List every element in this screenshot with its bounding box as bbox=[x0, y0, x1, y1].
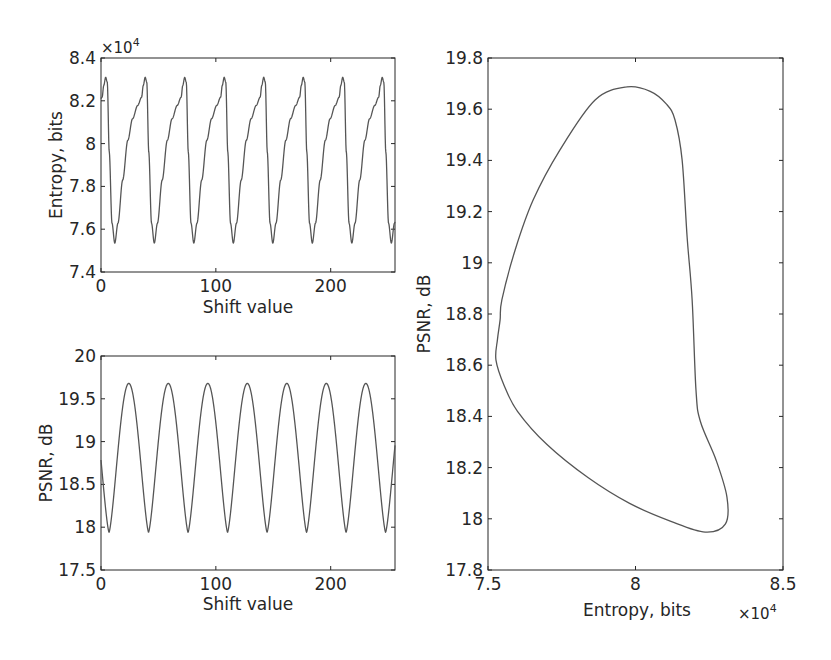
figure: 01002007.47.67.888.28.4 ×104 Shift value… bbox=[0, 0, 831, 660]
y-tick-label: 19.2 bbox=[445, 202, 483, 222]
y-tick-label: 8.4 bbox=[69, 48, 96, 68]
y-tick-label: 18.4 bbox=[445, 406, 483, 426]
y-tick-label: 18.2 bbox=[445, 458, 483, 478]
x-tick-label: 100 bbox=[200, 574, 232, 594]
x-tick-label: 0 bbox=[96, 276, 107, 296]
x-tick-label: 8 bbox=[630, 574, 641, 594]
y-tick-label: 19.6 bbox=[445, 99, 483, 119]
x-tick-label: 8.5 bbox=[769, 574, 796, 594]
entropy-line bbox=[101, 77, 395, 243]
y-tick-label: 7.4 bbox=[69, 262, 96, 282]
y-tick-label: 20 bbox=[74, 346, 96, 366]
y-tick-label: 17.8 bbox=[445, 560, 483, 580]
x-exponent-label: ×104 bbox=[738, 602, 777, 623]
y-tick-label: 19.8 bbox=[445, 48, 483, 68]
y-tick-label: 18.8 bbox=[445, 304, 483, 324]
y-tick-label: 19.5 bbox=[58, 389, 96, 409]
y-axis-label: PSNR, dB bbox=[36, 424, 56, 503]
y-tick-label: 18.5 bbox=[58, 474, 96, 494]
y-tick-label: 18 bbox=[74, 517, 96, 537]
plot-frame bbox=[101, 356, 395, 570]
x-tick-label: 200 bbox=[314, 574, 346, 594]
psnr-vs-entropy-panel: 7.588.517.81818.218.418.618.81919.219.41… bbox=[414, 48, 797, 623]
y-tick-label: 19 bbox=[461, 253, 483, 273]
tick-labels: 7.588.517.81818.218.418.618.81919.219.41… bbox=[445, 48, 796, 594]
y-tick-label: 17.5 bbox=[58, 560, 96, 580]
y-tick-label: 8 bbox=[85, 134, 96, 154]
x-axis-label: Shift value bbox=[203, 594, 293, 614]
y-tick-label: 18 bbox=[461, 509, 483, 529]
psnr-vs-shift-panel: 010020017.51818.51919.520 Shift value PS… bbox=[36, 346, 395, 614]
x-axis-label: Entropy, bits bbox=[583, 600, 691, 620]
y-tick-label: 18.6 bbox=[445, 355, 483, 375]
x-tick-label: 0 bbox=[96, 574, 107, 594]
y-tick-label: 8.2 bbox=[69, 91, 96, 111]
y-tick-label: 7.8 bbox=[69, 176, 96, 196]
axis-ticks bbox=[101, 356, 395, 570]
y-axis-label: PSNR, dB bbox=[414, 275, 434, 354]
x-tick-label: 100 bbox=[200, 276, 232, 296]
y-tick-label: 19 bbox=[74, 432, 96, 452]
axis-ticks bbox=[488, 58, 783, 570]
x-axis-label: Shift value bbox=[203, 297, 293, 317]
plot-frame bbox=[488, 58, 783, 570]
psnr-entropy-loop bbox=[496, 87, 729, 533]
y-axis-label: Entropy, bits bbox=[46, 111, 66, 219]
psnr-line bbox=[101, 383, 395, 532]
y-tick-label: 7.6 bbox=[69, 219, 96, 239]
y-exponent-label: ×104 bbox=[101, 36, 140, 57]
x-tick-label: 200 bbox=[314, 276, 346, 296]
y-tick-label: 19.4 bbox=[445, 150, 483, 170]
entropy-vs-shift-panel: 01002007.47.67.888.28.4 ×104 Shift value… bbox=[46, 36, 395, 317]
